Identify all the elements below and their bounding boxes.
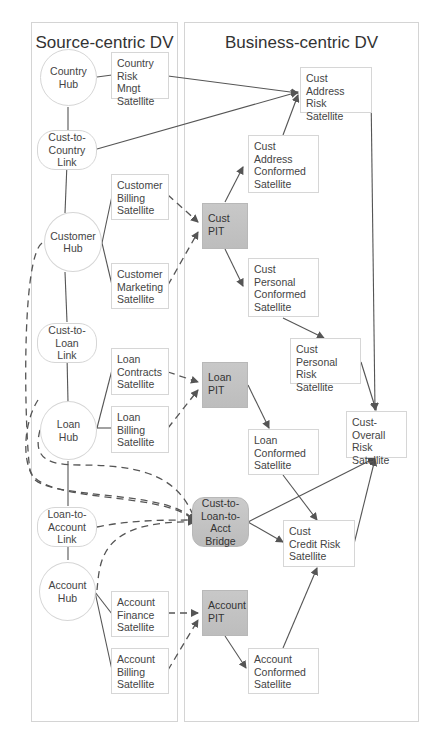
loan-billing-satellite: Loan Billing Satellite bbox=[111, 406, 169, 453]
cust-pit: Cust PIT bbox=[202, 203, 248, 249]
cust-to-loan-link: Cust-to- Loan Link bbox=[37, 323, 97, 363]
cust-to-loan-to-acct-bridge: Cust-to- Loan-to- Acct Bridge bbox=[192, 497, 249, 547]
cust-personal-risk-satellite: Cust Personal Risk Satellite bbox=[290, 338, 361, 384]
cust-address-conformed-satellite: Cust Address Conformed Satellite bbox=[248, 135, 319, 193]
loan-pit: Loan PIT bbox=[202, 362, 248, 408]
account-billing-satellite: Account Billing Satellite bbox=[111, 648, 169, 694]
customer-billing-satellite: Customer Billing Satellite bbox=[111, 174, 169, 220]
account-hub: Account Hub bbox=[39, 562, 96, 621]
cust-personal-conformed-satellite: Cust Personal Conformed Satellite bbox=[248, 258, 319, 317]
loan-conformed-satellite: Loan Conformed Satellite bbox=[248, 429, 319, 475]
customer-marketing-satellite: Customer Marketing Satellite bbox=[111, 263, 169, 309]
cust-overall-risk-satellite: Cust-Overall Risk Satellite bbox=[346, 411, 407, 458]
country-risk-mngt-satellite: Country Risk Mngt Satellite bbox=[111, 52, 169, 99]
cust-to-country-link: Cust-to- Country Link bbox=[37, 130, 97, 170]
loan-contracts-satellite: Loan Contracts Satellite bbox=[111, 348, 169, 395]
account-finance-satellite: Account Finance Satellite bbox=[111, 591, 169, 637]
customer-hub: Customer Hub bbox=[44, 212, 102, 272]
cust-address-risk-satellite: Cust Address Risk Satellite bbox=[300, 67, 372, 113]
loan-to-account-link: Loan-to- Account Link bbox=[37, 507, 97, 547]
account-pit: Account PIT bbox=[202, 590, 248, 636]
cust-credit-risk-satellite: Cust Credit Risk Satellite bbox=[283, 520, 355, 567]
country-hub: Country Hub bbox=[40, 49, 97, 106]
loan-hub: Loan Hub bbox=[40, 401, 97, 460]
account-conformed-satellite: Account Conformed Satellite bbox=[248, 648, 319, 694]
